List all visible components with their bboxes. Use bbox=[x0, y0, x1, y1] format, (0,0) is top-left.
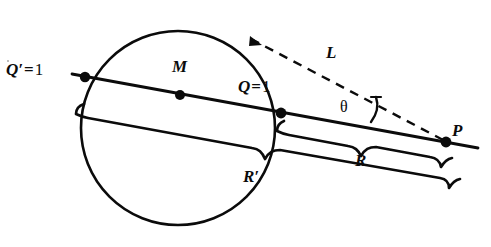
label-q-prime: Q′=1 bbox=[6, 61, 43, 78]
point-marker-q-prime bbox=[80, 72, 90, 82]
label-q-prime-value: 1 bbox=[35, 60, 44, 79]
point-marker-p bbox=[441, 137, 452, 148]
label-q-prime-var: Q′ bbox=[6, 60, 23, 79]
tangent-line-dashed bbox=[251, 39, 447, 142]
point-marker-m bbox=[175, 90, 185, 100]
label-q-op: = bbox=[250, 77, 262, 96]
label-q-value: 1 bbox=[262, 77, 271, 96]
label-q-var: Q bbox=[238, 77, 250, 96]
diagram-canvas bbox=[0, 0, 491, 247]
geometry-figure: Q′=1 Q=1 M P L θ R R′ bbox=[0, 0, 491, 247]
theta-angle-arc bbox=[371, 97, 377, 122]
label-r: R bbox=[355, 152, 366, 169]
label-l: L bbox=[326, 44, 336, 61]
label-q: Q=1 bbox=[238, 78, 270, 95]
label-q-prime-op: = bbox=[23, 60, 35, 79]
brace-r-prime bbox=[76, 104, 460, 188]
label-p: P bbox=[452, 122, 462, 139]
point-marker-q bbox=[276, 108, 287, 119]
label-m: M bbox=[172, 58, 187, 75]
label-theta: θ bbox=[340, 99, 348, 115]
label-r-prime: R′ bbox=[243, 168, 259, 185]
